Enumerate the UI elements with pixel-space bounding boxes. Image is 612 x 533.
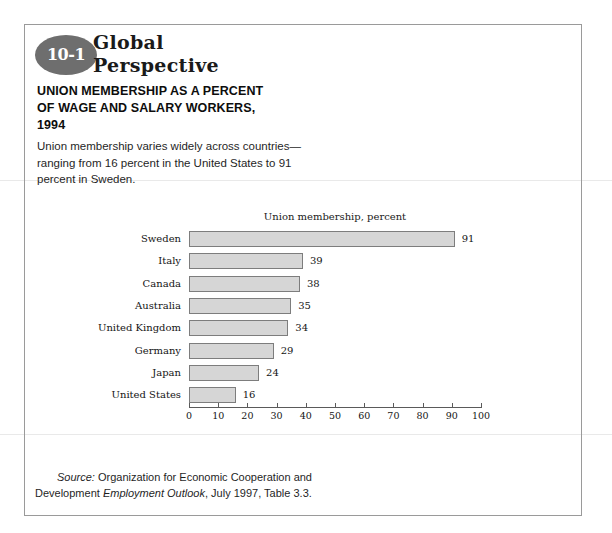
x-axis-tick-label: 20	[232, 410, 262, 421]
bar-category-label: Australia	[25, 296, 181, 316]
badge-number: 10-1	[35, 35, 97, 75]
bar-value-label: 16	[243, 385, 256, 405]
caption-line-2: ranging from 16 percent in the United St…	[37, 155, 355, 172]
bar	[189, 365, 259, 381]
bar-row: Germany29	[25, 341, 581, 361]
figure-caption: Union membership varies widely across co…	[37, 138, 355, 188]
x-axis-tick	[452, 403, 453, 408]
bar	[189, 320, 288, 336]
caption-line-1: Union membership varies widely across co…	[37, 138, 355, 155]
x-axis-tick	[364, 403, 365, 408]
x-axis-tick-label: 90	[437, 410, 467, 421]
source-text-1: Organization for Economic Cooperation an…	[95, 471, 312, 483]
source-line-1: Source: Organization for Economic Cooper…	[35, 469, 395, 485]
figure-box: 10-1 Global Perspective UNION MEMBERSHIP…	[24, 24, 582, 516]
bar	[189, 276, 300, 292]
bar-category-label: United Kingdom	[25, 318, 181, 338]
bar	[189, 298, 291, 314]
x-axis-tick	[247, 403, 248, 408]
x-axis-tick-label: 70	[378, 410, 408, 421]
bar-row: United States16	[25, 385, 581, 405]
bar-chart: Union membership, percent Sweden91Italy3…	[25, 211, 581, 441]
bar-row: Sweden91	[25, 229, 581, 249]
bar-category-label: Sweden	[25, 229, 181, 249]
bar-value-label: 29	[281, 341, 294, 361]
x-axis-tick	[335, 403, 336, 408]
bar-row: Japan24	[25, 363, 581, 383]
bar	[189, 231, 455, 247]
page-title: UNION MEMBERSHIP AS A PERCENT OF WAGE AN…	[37, 83, 377, 134]
x-axis-tick-label: 40	[291, 410, 321, 421]
x-axis: 0102030405060708090100	[189, 407, 481, 437]
x-axis-tick-label: 80	[408, 410, 438, 421]
source-publication: Employment Outlook	[103, 487, 205, 499]
x-axis-tick-label: 60	[349, 410, 379, 421]
source-suffix: , July 1997, Table 3.3.	[205, 487, 312, 499]
chart-axis-title: Union membership, percent	[189, 211, 481, 222]
title-line-1: UNION MEMBERSHIP AS A PERCENT	[37, 83, 377, 100]
x-axis-tick-label: 0	[174, 410, 204, 421]
x-axis-tick	[218, 403, 219, 408]
x-axis-tick	[189, 403, 190, 408]
bar-category-label: Canada	[25, 274, 181, 294]
wordmark-line-2: Perspective	[93, 54, 219, 77]
bar-value-label: 34	[295, 318, 308, 338]
bar-value-label: 39	[310, 251, 323, 271]
source-prefix: Development	[35, 487, 103, 499]
x-axis-tick	[277, 403, 278, 408]
bar	[189, 343, 274, 359]
bar-value-label: 91	[462, 229, 475, 249]
source-note: Source: Organization for Economic Cooper…	[35, 469, 395, 501]
x-axis-tick	[423, 403, 424, 408]
bar-category-label: Italy	[25, 251, 181, 271]
x-axis-tick	[481, 403, 482, 408]
bar-category-label: Japan	[25, 363, 181, 383]
bar-value-label: 35	[298, 296, 311, 316]
series-wordmark: Global Perspective	[93, 31, 219, 77]
bar-row: Australia35	[25, 296, 581, 316]
title-line-2: OF WAGE AND SALARY WORKERS,	[37, 100, 377, 117]
bar-category-label: United States	[25, 385, 181, 405]
source-label: Source:	[57, 471, 95, 483]
bar-value-label: 24	[266, 363, 279, 383]
bar-value-label: 38	[307, 274, 320, 294]
x-axis-tick-label: 30	[262, 410, 292, 421]
bar-row: Italy39	[25, 251, 581, 271]
x-axis-tick-label: 50	[320, 410, 350, 421]
wordmark-line-1: Global	[93, 31, 219, 54]
title-line-3: 1994	[37, 117, 377, 134]
bar-category-label: Germany	[25, 341, 181, 361]
x-axis-tick	[393, 403, 394, 408]
x-axis-tick-label: 100	[466, 410, 496, 421]
caption-line-3: percent in Sweden.	[37, 171, 355, 188]
x-axis-tick-label: 10	[203, 410, 233, 421]
bar-row: United Kingdom34	[25, 318, 581, 338]
bar	[189, 253, 303, 269]
source-line-2: Development Employment Outlook, July 199…	[35, 485, 395, 501]
bar-row: Canada38	[25, 274, 581, 294]
figure-header: 10-1 Global Perspective	[35, 31, 365, 83]
bar	[189, 387, 236, 403]
x-axis-tick	[306, 403, 307, 408]
